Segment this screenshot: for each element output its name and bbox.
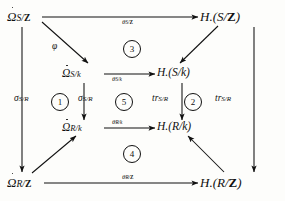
region-number-1: 1 [51, 93, 69, 111]
label-theta-r-z: θR/Z [122, 174, 134, 181]
node-h-r-k: H.(R/k) [157, 121, 191, 133]
h-r-k-label: H.(R/k) [157, 120, 191, 132]
commutative-diagram: ΩS/Z H.(S/Z) ΩS/k H.(S/k) ΩR/k H.(R/k) Ω… [0, 0, 285, 201]
h-s-z-main: H.(S/ [200, 9, 227, 24]
region-number-4: 4 [123, 145, 141, 163]
node-omega-s-k: ΩS/k [62, 68, 81, 80]
omega-r-k-subscript: R/k [70, 123, 81, 133]
theta-r-k-sub: R/k [115, 119, 122, 125]
node-h-s-k: H.(S/k) [157, 67, 190, 79]
node-omega-s-z: ΩS/Z [7, 10, 30, 23]
node-omega-r-z: ΩR/Z [7, 176, 31, 189]
region-number-3: 3 [123, 40, 141, 58]
omega-s-z-subscript-bold: Z [24, 12, 30, 23]
omega-r-z-subscript-bold: Z [25, 178, 31, 189]
region-number-2: 2 [184, 93, 202, 111]
label-sigma-outer: σS/R [14, 94, 28, 104]
arrow-phi [42, 22, 88, 63]
phi-glyph: φ [52, 41, 57, 51]
label-theta-r-k: θR/k [112, 119, 122, 126]
region-5-label: 5 [122, 97, 127, 107]
label-sigma-inner: σS/R [78, 94, 92, 104]
label-tr-inner: trS/R [152, 94, 168, 104]
sigma-outer-sub: S/R [19, 95, 29, 103]
tr-inner-sub: S/R [158, 95, 168, 103]
h-r-z-tail: ) [237, 175, 241, 190]
region-1-label: 1 [58, 97, 63, 107]
node-h-r-z: H.(R/Z) [200, 176, 242, 189]
arrow-h-r-z-to-h-r-k [188, 136, 224, 172]
arrow-omega-r-z-to-omega-r-k [32, 136, 76, 173]
region-number-5: 5 [115, 93, 133, 111]
node-omega-r-k: ΩR/k [62, 122, 82, 134]
region-2-label: 2 [191, 97, 196, 107]
omega-glyph: Ω [62, 67, 70, 79]
theta-r-z-sub-bold: Z [130, 174, 133, 180]
label-tr-outer: trS/R [215, 94, 231, 104]
omega-glyph: Ω [7, 9, 16, 24]
label-theta-s-z: θS/Z [122, 19, 133, 26]
h-s-k-label: H.(S/k) [157, 66, 190, 78]
region-4-label: 4 [130, 149, 135, 159]
theta-s-z-sub-bold: Z [129, 19, 132, 25]
tr-outer-sub: S/R [221, 95, 231, 103]
h-s-z-bold: Z [227, 9, 236, 24]
theta-s-k-sub: S/k [115, 76, 121, 82]
region-3-label: 3 [130, 44, 135, 54]
arrow-h-s-z-to-h-s-k [180, 26, 218, 63]
node-h-s-z: H.(S/Z) [200, 10, 240, 23]
h-r-z-main: H.(R/ [200, 175, 229, 190]
omega-r-z-subscript: R/ [16, 178, 25, 189]
omega-glyph: Ω [62, 121, 70, 133]
label-theta-s-k: θS/k [112, 76, 122, 83]
sigma-inner-sub: S/R [83, 95, 93, 103]
h-r-z-bold: Z [229, 175, 238, 190]
omega-s-k-subscript: S/k [70, 69, 80, 79]
omega-glyph: Ω [7, 175, 16, 190]
omega-s-z-subscript: S/ [16, 12, 23, 23]
h-s-z-tail: ) [236, 9, 240, 24]
label-phi: φ [52, 42, 57, 52]
diagram-arrows-layer [0, 0, 285, 201]
